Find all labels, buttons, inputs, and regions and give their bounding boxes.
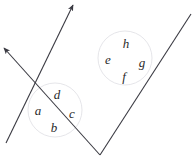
line-1-southwest-northeast [6,5,73,143]
angle-label-b: b [51,121,58,134]
angle-label-f: f [122,70,126,83]
angle-label-d: d [54,88,61,101]
angle-label-c: c [69,107,75,120]
angle-label-a: a [35,104,42,117]
angle-label-h: h [123,37,130,50]
angle-label-g: g [139,56,146,69]
line-2-northwest-arrow [4,48,100,155]
angle-label-e: e [105,53,111,66]
geometry-canvas [0,0,193,160]
geometry-figure: a d c b e h g f [0,0,193,160]
line-2-northeast-extension [100,14,191,155]
